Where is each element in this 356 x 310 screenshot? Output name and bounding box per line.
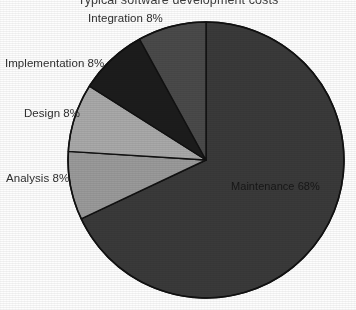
pie-chart-svg	[0, 0, 356, 310]
slice-label-maintenance: Maintenance 68%	[231, 180, 320, 192]
pie-chart-figure	[0, 0, 356, 310]
slice-label-integration: Integration 8%	[88, 12, 163, 24]
slice-label-implementation: Implementation 8%	[5, 57, 104, 69]
slice-label-analysis: Analysis 8%	[6, 172, 69, 184]
pie-slice-group	[68, 22, 344, 298]
pie-chart-screenshot: Typical software development costs Integ…	[0, 0, 356, 310]
slice-label-design: Design 8%	[24, 107, 80, 119]
